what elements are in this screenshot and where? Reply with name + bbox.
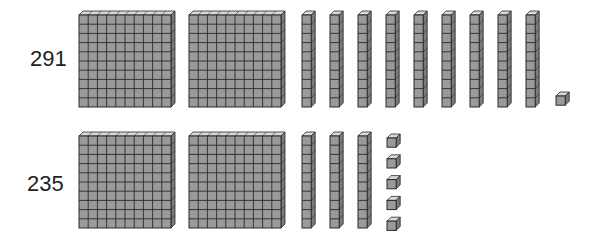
row-1-hundreds-flat bbox=[79, 11, 175, 107]
row-1-tens-rod bbox=[302, 11, 315, 107]
row-2-ones-unit bbox=[387, 196, 400, 209]
row-1-tens-rod bbox=[526, 11, 539, 107]
row-2-tens-rod bbox=[330, 132, 343, 228]
row-1-tens-rod bbox=[470, 11, 483, 107]
row-1-tens-rod bbox=[386, 11, 399, 107]
row-2-ones-unit bbox=[387, 134, 400, 147]
base-ten-blocks-diagram bbox=[0, 0, 596, 243]
row-1-tens-rod bbox=[414, 11, 427, 107]
row-1-tens-rod bbox=[498, 11, 511, 107]
row-1-tens-rod bbox=[358, 11, 371, 107]
row-2-ones-unit bbox=[387, 217, 400, 230]
row-2-ones-unit bbox=[387, 155, 400, 168]
row-2-tens-rod bbox=[302, 132, 315, 228]
row-1-tens-rod bbox=[442, 11, 455, 107]
row-2-ones-unit bbox=[387, 176, 400, 189]
row-1-tens-rod bbox=[330, 11, 343, 107]
row-2-hundreds-flat bbox=[189, 132, 285, 228]
row-2-tens-rod bbox=[358, 132, 371, 228]
row-1-hundreds-flat bbox=[189, 11, 285, 107]
row-1-ones-unit bbox=[556, 92, 569, 105]
row-2-hundreds-flat bbox=[79, 132, 175, 228]
